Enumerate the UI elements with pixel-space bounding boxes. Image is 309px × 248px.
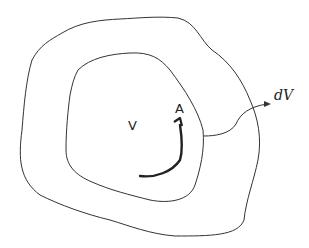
- diagram-svg: [0, 0, 309, 248]
- arrowhead-icon: [174, 118, 182, 126]
- outer-boundary: [20, 17, 259, 236]
- label-dv: dV: [274, 88, 293, 102]
- dv-arrowhead-icon: [264, 101, 271, 107]
- label-v: V: [128, 119, 137, 132]
- surface-arrow: [140, 125, 182, 176]
- label-a: A: [175, 102, 184, 115]
